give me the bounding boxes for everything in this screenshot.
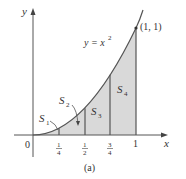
y-axis-label: y <box>21 5 27 17</box>
svg-text:3: 3 <box>108 141 112 149</box>
region-label-s2: S 2 <box>59 94 70 109</box>
svg-text:2: 2 <box>83 149 87 157</box>
svg-text:S: S <box>91 105 97 117</box>
svg-text:S: S <box>117 83 123 95</box>
svg-text:2: 2 <box>66 101 70 109</box>
svg-text:1: 1 <box>46 119 50 127</box>
point-marker <box>134 26 137 29</box>
figure-caption: (a) <box>84 162 95 174</box>
origin-label: 0 <box>25 139 30 150</box>
tick-three-quarter: 3 4 <box>107 141 113 157</box>
tick-half: 1 2 <box>82 141 88 157</box>
point-label: (1, 1) <box>140 21 162 33</box>
x-axis-label: x <box>163 137 169 149</box>
svg-text:1: 1 <box>57 141 61 149</box>
svg-text:4: 4 <box>124 90 128 98</box>
svg-text:4: 4 <box>57 149 61 157</box>
svg-text:3: 3 <box>98 112 102 120</box>
svg-text:S: S <box>59 94 65 106</box>
svg-text:1: 1 <box>83 141 87 149</box>
tick-one: 1 <box>133 138 138 149</box>
svg-text:S: S <box>39 112 45 124</box>
figure-canvas: y x 0 1 4 1 2 3 4 1 y = x 2 (1, 1) S 1 S… <box>0 0 186 179</box>
tick-quarter: 1 4 <box>56 141 62 157</box>
region-label-s1: S 1 <box>39 112 50 127</box>
curve-exponent: 2 <box>108 34 112 42</box>
curve-label: y = x <box>83 37 105 48</box>
svg-text:4: 4 <box>108 149 112 157</box>
y-axis-arrow-icon <box>31 8 36 15</box>
